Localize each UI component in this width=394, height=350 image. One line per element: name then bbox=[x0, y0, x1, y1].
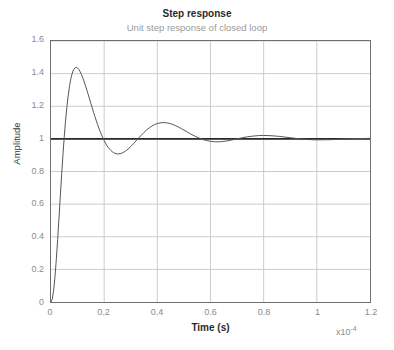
plot-svg bbox=[51, 41, 370, 302]
x-axis-exponent-base: x10 bbox=[336, 327, 351, 337]
plot-area bbox=[50, 40, 371, 303]
chart-subtitle: Unit step response of closed loop bbox=[0, 22, 394, 33]
y-axis-tick-label: 0.2 bbox=[4, 264, 44, 274]
gridlines bbox=[51, 41, 370, 302]
x-axis-tick-label: 1 bbox=[298, 307, 338, 317]
step-response-figure: Step response Unit step response of clos… bbox=[0, 0, 394, 350]
x-axis-label: Time (s) bbox=[50, 322, 371, 333]
x-axis-exponent: x10-4 bbox=[336, 325, 357, 337]
y-axis-tick-label: 0 bbox=[4, 297, 44, 307]
y-axis-label: Amplitude bbox=[11, 84, 22, 204]
chart-title: Step response bbox=[0, 8, 394, 19]
x-axis-tick-label: 0.4 bbox=[137, 307, 177, 317]
x-axis-tick-label: 0.6 bbox=[191, 307, 231, 317]
y-axis-tick-label: 1.6 bbox=[4, 34, 44, 44]
x-axis-tick-label: 1.2 bbox=[351, 307, 391, 317]
x-axis-tick-label: 0.2 bbox=[84, 307, 124, 317]
y-axis-tick-label: 1.4 bbox=[4, 67, 44, 77]
y-axis-tick-label: 0.4 bbox=[4, 231, 44, 241]
x-axis-tick-label: 0.8 bbox=[244, 307, 284, 317]
x-axis-tick-label: 0 bbox=[30, 307, 70, 317]
x-axis-exponent-power: -4 bbox=[351, 325, 357, 332]
